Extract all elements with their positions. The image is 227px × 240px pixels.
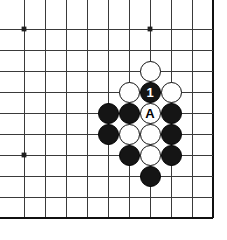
star-point xyxy=(22,27,27,32)
white-stone[interactable] xyxy=(119,124,140,145)
white-stone[interactable] xyxy=(140,61,161,82)
black-stone[interactable] xyxy=(161,103,182,124)
star-point xyxy=(148,27,153,32)
white-stone[interactable] xyxy=(119,82,140,103)
star-point xyxy=(22,153,27,158)
white-stone[interactable] xyxy=(140,124,161,145)
stone-label: 1 xyxy=(146,86,153,99)
go-board-diagram: 1A xyxy=(0,0,227,240)
white-stone[interactable] xyxy=(161,82,182,103)
black-stone[interactable] xyxy=(161,124,182,145)
white-stone[interactable] xyxy=(140,145,161,166)
black-stone[interactable] xyxy=(98,124,119,145)
black-stone[interactable] xyxy=(119,103,140,124)
black-stone[interactable] xyxy=(98,103,119,124)
black-stone[interactable] xyxy=(119,145,140,166)
black-stone-labeled-1[interactable]: 1 xyxy=(140,82,161,103)
black-stone[interactable] xyxy=(161,145,182,166)
black-stone[interactable] xyxy=(140,166,161,187)
stone-label: A xyxy=(145,107,154,120)
white-stone-labeled-a[interactable]: A xyxy=(140,103,161,124)
